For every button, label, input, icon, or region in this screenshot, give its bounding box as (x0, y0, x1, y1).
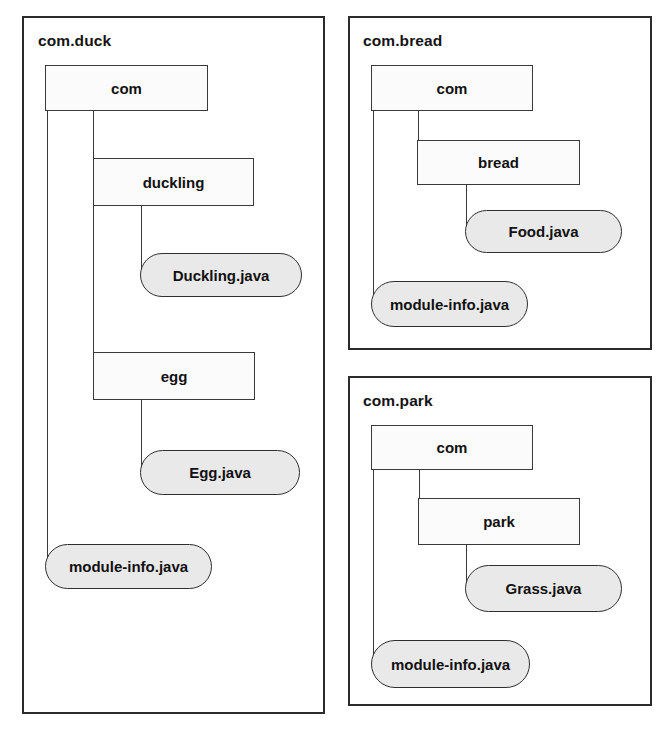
file-box-duck-module-info-java: module-info.java (45, 544, 212, 589)
connector-duck-com-to-module-info (47, 111, 48, 566)
module-title-com-park: com.park (363, 392, 433, 410)
file-box-food-java: Food.java (465, 210, 622, 253)
directory-label: egg (161, 368, 188, 385)
module-structure-diagram: com.duck com duckling Duckling.java egg … (0, 0, 669, 734)
directory-box-duck-com: com (45, 65, 208, 111)
directory-label: bread (478, 154, 519, 171)
file-label: module-info.java (391, 656, 510, 673)
file-box-egg-java: Egg.java (140, 450, 300, 495)
file-box-grass-java: Grass.java (465, 565, 622, 612)
file-label: Egg.java (189, 464, 251, 481)
directory-label: com (437, 80, 468, 97)
file-box-bread-module-info-java: module-info.java (371, 281, 528, 327)
file-box-park-module-info-java: module-info.java (371, 640, 530, 688)
connector-park-com-to-module-info (373, 470, 374, 662)
directory-box-park-com: com (371, 425, 533, 470)
directory-label: park (483, 513, 515, 530)
file-box-duckling-java: Duckling.java (140, 253, 302, 297)
connector-duck-com-to-children (93, 111, 94, 158)
module-title-com-duck: com.duck (38, 32, 111, 50)
connector-park-com-to-park (419, 470, 420, 498)
connector-bread-com-to-module-info (373, 111, 374, 303)
directory-box-park-park: park (418, 498, 580, 545)
directory-label: duckling (143, 174, 205, 191)
file-label: Food.java (508, 223, 578, 240)
module-title-com-bread: com.bread (363, 32, 442, 50)
connector-bread-com-to-bread (418, 111, 419, 140)
file-label: module-info.java (69, 558, 188, 575)
connector-duck-duckling-to-egg (93, 206, 94, 352)
directory-box-bread-com: com (371, 65, 533, 111)
directory-box-bread-bread: bread (417, 140, 580, 185)
directory-box-duck-duckling: duckling (93, 158, 254, 206)
directory-box-duck-egg: egg (93, 352, 255, 400)
directory-label: com (111, 80, 142, 97)
file-label: module-info.java (390, 296, 509, 313)
file-label: Grass.java (506, 580, 582, 597)
file-label: Duckling.java (173, 267, 270, 284)
directory-label: com (437, 439, 468, 456)
